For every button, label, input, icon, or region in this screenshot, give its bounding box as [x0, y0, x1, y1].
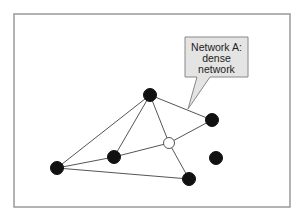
diagram-frame — [14, 14, 290, 207]
network-node-right — [206, 114, 219, 127]
network-node-top — [144, 89, 157, 102]
network-diagram: Network A: dense network — [0, 0, 305, 222]
network-node-center — [164, 138, 175, 149]
network-node-isolated — [210, 152, 223, 165]
network-node-left-mid — [108, 151, 121, 164]
network-node-bottom — [183, 173, 196, 186]
network-node-far-left — [51, 162, 64, 175]
callout-line-3: network — [198, 63, 236, 75]
